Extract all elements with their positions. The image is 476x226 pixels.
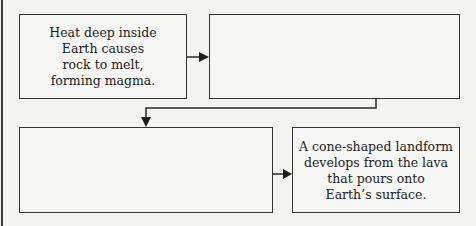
arrow-elbow-down-icon [141, 99, 376, 127]
arrow-right-icon [273, 169, 292, 179]
arrow-right-icon [187, 52, 209, 62]
flow-connectors [0, 0, 476, 226]
